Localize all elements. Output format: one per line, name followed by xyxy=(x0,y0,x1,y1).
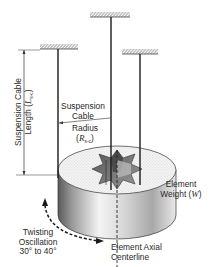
suspension-cable-label: Suspension Cable xyxy=(60,102,106,121)
ceiling-mount-right xyxy=(122,49,158,54)
ceiling-mount-left xyxy=(40,44,78,49)
cable-length-label: Suspension Cable Length (Ls-c) xyxy=(14,52,36,172)
ceiling-mount-middle xyxy=(90,12,130,17)
twisting-oscillation-label: Twisting Oscillation 30° to 40° xyxy=(14,228,62,257)
element-weight-label: Element Weight (W) xyxy=(158,180,204,199)
axial-centerline-label: Element Axial Centerline xyxy=(111,243,162,262)
radius-label: Radius (Rs-c) xyxy=(68,124,102,146)
